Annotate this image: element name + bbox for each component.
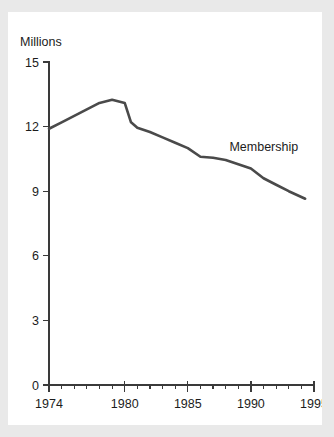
y-tick-label-3: 3 bbox=[32, 314, 39, 328]
y-tick-label-0: 0 bbox=[32, 379, 39, 393]
x-tick-label-1995: 1995 bbox=[300, 397, 322, 411]
x-tick-label-1985: 1985 bbox=[174, 397, 202, 411]
series-annotation-membership: Membership bbox=[229, 140, 298, 154]
x-tick-label-1990: 1990 bbox=[237, 397, 265, 411]
y-tick-label-15: 15 bbox=[25, 56, 39, 70]
y-tick-label-12: 12 bbox=[25, 120, 39, 134]
y-tick-label-9: 9 bbox=[32, 185, 39, 199]
chart-card: Millions0369121519741980198519901995Memb… bbox=[8, 12, 322, 425]
line-chart: Millions0369121519741980198519901995Memb… bbox=[8, 12, 322, 425]
y-tick-label-6: 6 bbox=[32, 249, 39, 263]
x-tick-label-1980: 1980 bbox=[111, 397, 139, 411]
y-axis-title: Millions bbox=[20, 35, 62, 49]
x-tick-label-1974: 1974 bbox=[35, 397, 63, 411]
